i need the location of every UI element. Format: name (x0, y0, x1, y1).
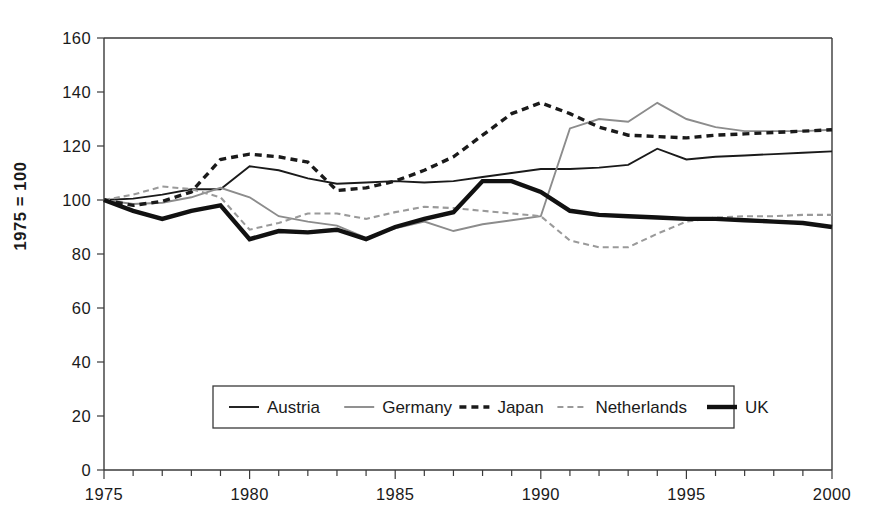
y-tick-label: 0 (81, 461, 91, 479)
legend-label-uk: UK (745, 398, 769, 417)
y-tick-label: 40 (72, 353, 91, 371)
x-tick-label: 2000 (813, 485, 851, 503)
data-series-group (104, 103, 832, 247)
y-tick-label: 140 (62, 83, 91, 101)
legend-label-germany: Germany (382, 398, 452, 417)
legend-label-japan: Japan (497, 398, 543, 417)
series-line-austria (104, 149, 832, 200)
y-tick-label: 120 (62, 137, 91, 155)
legend-label-austria: Austria (267, 398, 320, 417)
x-tick-label: 1995 (667, 485, 705, 503)
x-tick-label: 1990 (522, 485, 560, 503)
y-axis-title: 1975 = 100 (11, 161, 29, 250)
y-tick-label: 80 (72, 245, 91, 263)
x-tick-label: 1975 (85, 485, 123, 503)
x-tick-label: 1980 (230, 485, 268, 503)
chart-figure: 020406080100120140160 197519801985199019… (0, 0, 890, 531)
x-axis-ticks: 197519801985199019952000 (85, 470, 851, 503)
y-tick-label: 160 (62, 29, 91, 47)
chart-legend: AustriaGermanyJapanNetherlandsUK (213, 386, 769, 428)
y-axis-ticks: 020406080100120140160 (62, 29, 104, 479)
legend-label-netherlands: Netherlands (595, 398, 687, 417)
line-chart: 020406080100120140160 197519801985199019… (0, 0, 890, 531)
y-tick-label: 60 (72, 299, 91, 317)
y-tick-label: 100 (62, 191, 91, 209)
x-tick-label: 1985 (376, 485, 414, 503)
y-tick-label: 20 (72, 407, 91, 425)
